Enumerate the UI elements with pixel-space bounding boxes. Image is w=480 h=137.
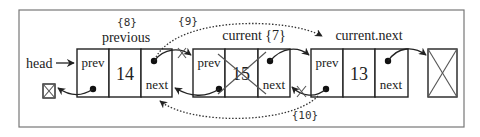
prev-text: prev — [315, 55, 339, 70]
step-10-label: {10} — [292, 109, 319, 122]
prev-text: prev — [81, 55, 105, 70]
head-label: head — [26, 56, 52, 71]
prev-text: prev — [197, 55, 221, 70]
next-text: next — [146, 77, 169, 92]
value-text: 13 — [350, 64, 368, 84]
next-text: next — [380, 77, 403, 92]
step-9-label: {9} — [178, 15, 198, 28]
previous-label: previous — [102, 30, 150, 45]
head-null-icon — [43, 84, 55, 98]
current-next-label: current.next — [335, 28, 402, 43]
tail-null-icon — [428, 49, 457, 97]
next-text: next — [263, 77, 286, 92]
value-text: 14 — [116, 64, 134, 84]
linked-list-diagram: {8} previous {9} current {7} current.nex… — [0, 0, 480, 137]
current-label: current {7} — [222, 28, 286, 43]
step-8-label: {8} — [117, 16, 137, 29]
